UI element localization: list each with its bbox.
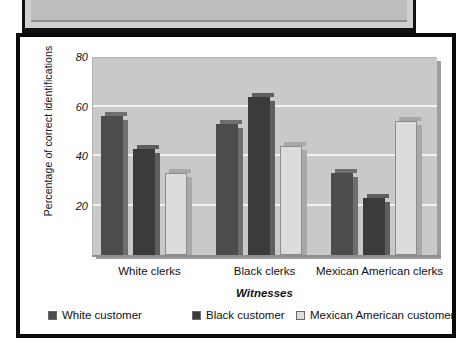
bar[interactable] — [363, 198, 385, 255]
y-axis-tick-label: 20 — [48, 200, 88, 212]
bar[interactable] — [331, 173, 353, 255]
bar[interactable] — [101, 116, 123, 255]
bar[interactable] — [280, 146, 302, 255]
figure-frame: Percentage of correct identifications 20… — [16, 33, 456, 338]
legend-item[interactable]: Mexican American customer — [296, 309, 454, 321]
x-axis-category-labels: White clerksBlack clerksMexican American… — [92, 265, 437, 285]
x-axis-category-label: White clerks — [118, 265, 181, 277]
bar-face — [101, 116, 123, 255]
bar-side — [187, 177, 192, 255]
y-axis-ticks: 20406080 — [42, 37, 88, 277]
bar-face — [133, 149, 155, 255]
x-axis-category-label: Black clerks — [234, 265, 295, 277]
bar-group — [101, 57, 187, 255]
bar[interactable] — [165, 173, 187, 255]
x-axis-category-label: Mexican American clerks — [316, 265, 443, 277]
bar-face — [395, 121, 417, 255]
legend-item[interactable]: White customer — [48, 309, 142, 321]
bar-side — [123, 120, 128, 255]
bar-face — [280, 146, 302, 255]
bar-side — [417, 125, 422, 255]
bar[interactable] — [133, 149, 155, 255]
y-axis-tick-label: 60 — [48, 101, 88, 113]
legend-label: Mexican American customer — [310, 309, 454, 321]
bar-side — [238, 128, 243, 255]
bar-side — [302, 150, 307, 255]
bar-face — [331, 173, 353, 255]
bar[interactable] — [216, 124, 238, 255]
legend-swatch-icon — [296, 311, 305, 320]
legend-label: Black customer — [206, 309, 285, 321]
y-axis-tick-label: 80 — [48, 51, 88, 63]
bar[interactable] — [395, 121, 417, 255]
bars-layer — [92, 57, 437, 255]
legend-item[interactable]: Black customer — [192, 309, 285, 321]
bar-group — [331, 57, 417, 255]
top-cutoff-panel — [22, 0, 416, 30]
bar-side — [270, 101, 275, 255]
bar[interactable] — [248, 97, 270, 255]
bar-face — [248, 97, 270, 255]
bar-face — [216, 124, 238, 255]
x-axis-baseline — [92, 255, 441, 257]
bar-face — [363, 198, 385, 255]
x-axis-title: Witnesses — [92, 287, 437, 299]
bar-group — [216, 57, 302, 255]
bar-side — [385, 202, 390, 255]
bar-side — [155, 153, 160, 255]
legend-swatch-icon — [48, 311, 57, 320]
bar-chart: Percentage of correct identifications 20… — [20, 37, 452, 334]
chart-legend: White customerBlack customerMexican Amer… — [44, 309, 442, 329]
legend-swatch-icon — [192, 311, 201, 320]
top-cutoff-panel-inner — [31, 0, 407, 22]
bar-face — [165, 173, 187, 255]
y-axis-tick-label: 40 — [48, 150, 88, 162]
legend-label: White customer — [62, 309, 142, 321]
bar-side — [353, 177, 358, 255]
